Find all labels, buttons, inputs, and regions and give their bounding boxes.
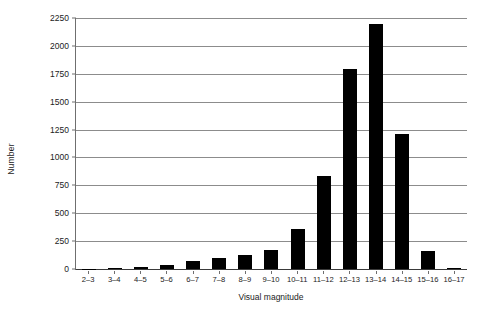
- x-axis-tick-label: 15–16: [417, 276, 438, 289]
- x-axis-tick-label: 16–17: [443, 276, 464, 289]
- x-axis-tick: 5–6: [153, 271, 179, 289]
- x-axis-tick-mark: [349, 271, 350, 274]
- bar-cell: [415, 18, 441, 269]
- x-axis-tick-mark: [140, 271, 141, 274]
- x-axis-tick-label: 13–14: [365, 276, 386, 289]
- bar[interactable]: [395, 134, 409, 269]
- y-axis-title-text: Number: [6, 143, 16, 174]
- x-axis-tick-label: 14–15: [391, 276, 412, 289]
- x-axis-tick-mark: [88, 271, 89, 274]
- x-axis-tick: 16–17: [441, 271, 467, 289]
- bar[interactable]: [421, 251, 435, 269]
- x-axis-tick: 9–10: [258, 271, 284, 289]
- x-axis-tick-label: 11–12: [313, 276, 334, 289]
- bar[interactable]: [134, 267, 148, 269]
- bar[interactable]: [238, 255, 252, 270]
- x-axis-tick-mark: [402, 271, 403, 274]
- bar[interactable]: [343, 69, 357, 269]
- x-axis-tick: 4–5: [127, 271, 153, 289]
- x-axis-tick-mark: [323, 271, 324, 274]
- bar-cell: [180, 18, 206, 269]
- x-axis-tick-label: 10–11: [287, 276, 308, 289]
- bar-cell: [154, 18, 180, 269]
- x-axis-tick-mark: [166, 271, 167, 274]
- x-axis-tick: 7–8: [206, 271, 232, 289]
- x-axis-tick-mark: [376, 271, 377, 274]
- x-axis-tick-label: 2–3: [82, 276, 95, 289]
- bar[interactable]: [317, 176, 331, 269]
- bar-cell: [363, 18, 389, 269]
- bar-cell: [441, 18, 467, 269]
- x-axis-tick: 6–7: [180, 271, 206, 289]
- x-axis-tick-mark: [271, 271, 272, 274]
- plot-area: 0250500750100012501500175020002250: [75, 18, 467, 270]
- bar[interactable]: [264, 250, 278, 269]
- bar-cell: [389, 18, 415, 269]
- bar[interactable]: [160, 265, 174, 269]
- x-axis-tick-mark: [219, 271, 220, 274]
- x-axis-tick-label: 12–13: [339, 276, 360, 289]
- x-axis-tick: 14–15: [389, 271, 415, 289]
- x-axis-tick-label: 4–5: [134, 276, 147, 289]
- x-axis-tick-mark: [454, 271, 455, 274]
- x-axis-tick-label: 6–7: [186, 276, 199, 289]
- bar-cell: [102, 18, 128, 269]
- x-axis-tick-mark: [114, 271, 115, 274]
- x-axis-tick-mark: [193, 271, 194, 274]
- x-axis-tick: 12–13: [336, 271, 362, 289]
- bar[interactable]: [108, 268, 122, 269]
- x-axis-tick: 3–4: [101, 271, 127, 289]
- x-axis-tick-mark: [428, 271, 429, 274]
- x-axis-tick-label: 3–4: [108, 276, 121, 289]
- bar[interactable]: [212, 258, 226, 269]
- x-axis-tick-label: 7–8: [212, 276, 225, 289]
- bar[interactable]: [186, 261, 200, 269]
- x-axis-tick: 15–16: [415, 271, 441, 289]
- bar-cell: [258, 18, 284, 269]
- bar-cell: [128, 18, 154, 269]
- x-axis-tick: 10–11: [284, 271, 310, 289]
- y-axis-title: Number: [2, 0, 20, 317]
- x-axis-tick-label: 8–9: [239, 276, 252, 289]
- bar-cell: [206, 18, 232, 269]
- bar-cell: [337, 18, 363, 269]
- bar-cell: [232, 18, 258, 269]
- x-axis-tick-mark: [297, 271, 298, 274]
- bar-chart-figure: Number 025050075010001250150017502000225…: [0, 0, 497, 317]
- bar-cell: [285, 18, 311, 269]
- bar[interactable]: [291, 229, 305, 269]
- x-axis-tick: 8–9: [232, 271, 258, 289]
- bar-cell: [311, 18, 337, 269]
- x-axis-tick: 11–12: [310, 271, 336, 289]
- bar-cell: [76, 18, 102, 269]
- x-axis-tick-label: 5–6: [160, 276, 173, 289]
- x-axis-tick-labels: 2–33–44–55–66–77–88–99–1010–1111–1212–13…: [75, 271, 467, 289]
- bar[interactable]: [369, 24, 383, 269]
- x-axis-tick: 2–3: [75, 271, 101, 289]
- bar[interactable]: [447, 268, 461, 269]
- x-axis-tick: 13–14: [363, 271, 389, 289]
- x-axis-title: Visual magnitude: [75, 292, 467, 302]
- bar-series: [76, 18, 467, 269]
- x-axis-tick-mark: [245, 271, 246, 274]
- x-axis-tick-label: 9–10: [263, 276, 280, 289]
